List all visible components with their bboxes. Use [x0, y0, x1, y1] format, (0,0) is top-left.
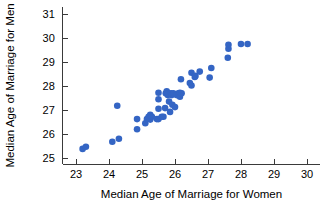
x-tick-label: 26 [169, 168, 181, 180]
y-tick-label: 27 [43, 104, 55, 116]
data-point [225, 54, 232, 61]
y-tick-label: 31 [43, 8, 55, 20]
y-axis-title: Median Age of Marriage for Men [4, 3, 16, 167]
data-point [208, 65, 215, 72]
data-point [238, 41, 245, 48]
data-point [160, 113, 167, 120]
x-axis-ticks: 2324252627282930 [70, 159, 313, 180]
data-point [178, 76, 185, 83]
x-tick-label: 30 [301, 168, 313, 180]
x-tick-label: 29 [268, 168, 280, 180]
data-point [196, 68, 203, 75]
y-tick-label: 30 [43, 32, 55, 44]
data-point [116, 136, 123, 143]
y-axis-ticks: 25262728293031 [43, 8, 68, 164]
data-point [114, 102, 121, 109]
data-point [155, 89, 162, 96]
data-point [178, 90, 185, 97]
y-tick-label: 26 [43, 128, 55, 140]
data-point [83, 143, 90, 150]
chart-canvas: 2324252627282930 25262728293031 Median A… [0, 0, 324, 206]
y-tick-label: 28 [43, 80, 55, 92]
data-point [244, 41, 251, 48]
scatter-plot-figure: 2324252627282930 25262728293031 Median A… [0, 0, 324, 206]
data-point [155, 96, 162, 103]
y-tick-label: 25 [43, 152, 55, 164]
data-point [155, 106, 162, 113]
data-points-group [79, 41, 251, 152]
x-tick-label: 28 [235, 168, 247, 180]
x-axis-title: Median Age of Marriage for Women [101, 188, 282, 200]
data-point [134, 116, 141, 123]
data-point [109, 138, 116, 145]
x-tick-label: 27 [202, 168, 214, 180]
data-point [167, 109, 174, 116]
data-point [172, 104, 179, 111]
y-tick-label: 29 [43, 56, 55, 68]
x-tick-label: 24 [103, 168, 115, 180]
data-point [134, 126, 141, 133]
data-point [206, 74, 213, 81]
x-tick-label: 25 [136, 168, 148, 180]
data-point [188, 82, 195, 89]
x-tick-label: 23 [70, 168, 82, 180]
data-point [225, 41, 232, 48]
